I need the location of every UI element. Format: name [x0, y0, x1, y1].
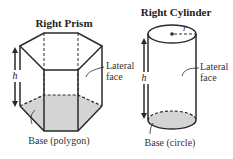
cylinder-base-label: Base (circle) [145, 137, 196, 149]
prism-title: Right Prism [35, 17, 92, 29]
cylinder-lateral-label-2: face [200, 72, 217, 83]
right-prism: Right Prism h Lateral face Base (polygon… [9, 17, 135, 147]
cylinder-lateral-label-1: Lateral [200, 61, 229, 72]
right-cylinder: Right Cylinder r h Lateral face Base (ci… [138, 6, 229, 149]
prism-top-face [20, 33, 102, 70]
prism-lateral-label-1: Lateral [106, 60, 135, 71]
cylinder-height-label: h [142, 72, 147, 83]
prism-lateral-label-2: face [106, 71, 123, 82]
cylinder-title: Right Cylinder [141, 6, 212, 18]
cylinder-radius-label: r [183, 22, 187, 33]
prism-height-label: h [13, 70, 18, 81]
prism-height-arrow: h [9, 50, 21, 104]
prism-base-label: Base (polygon) [28, 135, 89, 147]
solids-diagram: Right Prism h Lateral face Base (polygon… [0, 0, 233, 159]
